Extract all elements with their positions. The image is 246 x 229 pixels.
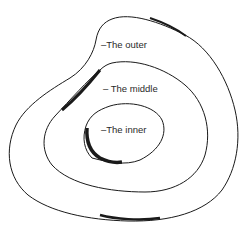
nested-curves-diagram: –The outer – The middle –The inner — [0, 0, 246, 229]
label-middle: – The middle — [103, 83, 158, 94]
label-outer: –The outer — [101, 39, 147, 50]
label-inner: –The inner — [101, 124, 146, 135]
